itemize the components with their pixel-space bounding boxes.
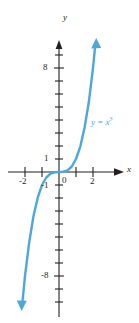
origin-label: 0 xyxy=(62,175,67,185)
curve-arrowhead-top xyxy=(91,38,101,49)
y-tick-label-8: 8 xyxy=(43,62,48,72)
x-tick-label-pos2: 2 xyxy=(90,176,95,186)
x-axis-label: x xyxy=(127,164,131,174)
cubic-function-graph: y x 8 1 -1 -8 -2 2 0 y = x3 xyxy=(0,0,139,323)
equation-base: y = x xyxy=(91,117,110,127)
y-tick-label-1: 1 xyxy=(44,153,49,163)
equation-exponent: 3 xyxy=(110,116,113,122)
curve-arrowhead-bottom xyxy=(17,301,27,312)
equation-label: y = x3 xyxy=(91,116,113,127)
y-tick-label-neg1: -1 xyxy=(41,180,49,190)
x-tick-label-neg2: -2 xyxy=(19,176,27,186)
x-axis-arrowhead xyxy=(114,168,124,175)
y-tick-label-neg8: -8 xyxy=(41,270,49,280)
graph-canvas xyxy=(0,0,139,323)
y-axis-arrowhead xyxy=(56,40,63,49)
y-axis-label: y xyxy=(63,12,67,22)
